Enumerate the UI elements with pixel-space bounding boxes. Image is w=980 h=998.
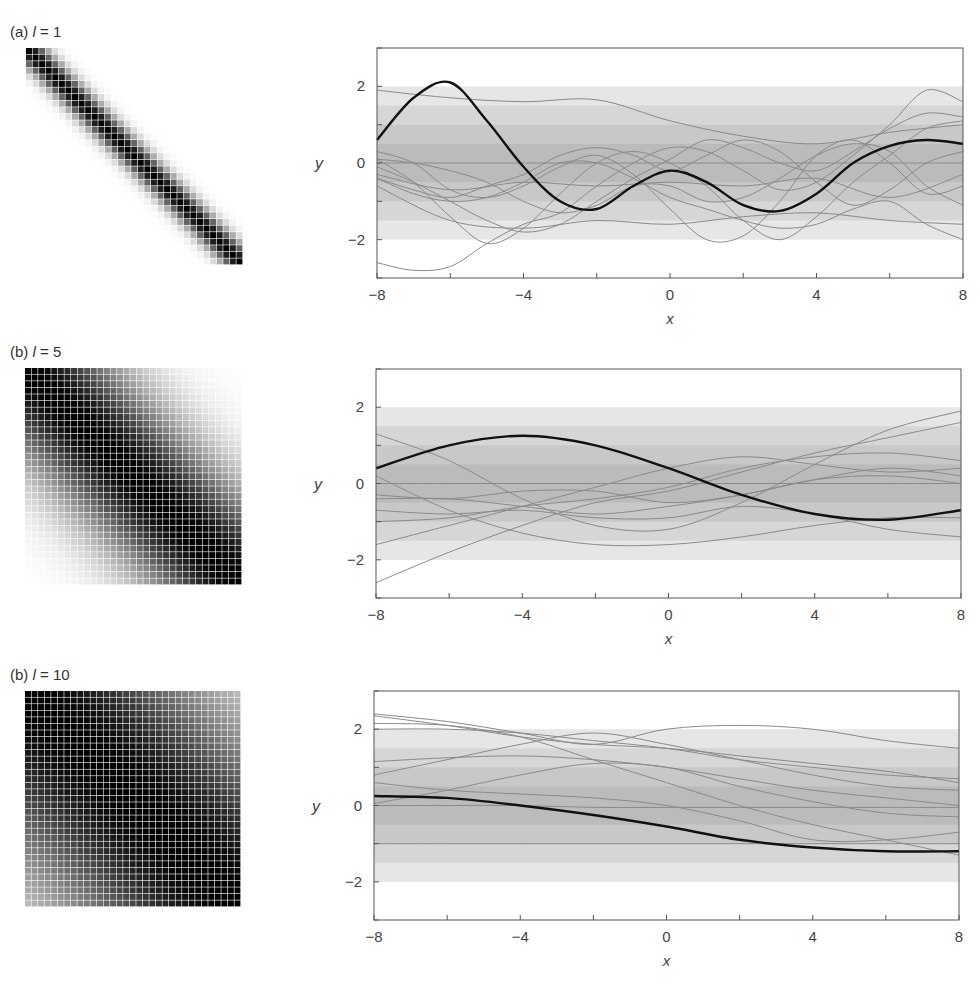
x-tick-label: −4 — [512, 928, 529, 945]
x-tick-label: 8 — [959, 286, 967, 303]
y-tick-label: −2 — [348, 231, 365, 248]
y-tick-label: 0 — [357, 154, 365, 171]
y-tick-label: −2 — [347, 551, 364, 568]
covariance-heatmap — [25, 691, 241, 907]
panel-label-part: = 1 — [36, 23, 61, 40]
x-tick-label: −8 — [365, 928, 382, 945]
x-tick-label: 4 — [812, 286, 820, 303]
y-tick-label: 0 — [356, 475, 364, 492]
panel-label-part: (b) — [10, 343, 33, 360]
y-tick-label: −2 — [345, 873, 362, 890]
x-tick-label: 0 — [662, 928, 670, 945]
y-axis-label: y — [314, 155, 324, 172]
x-tick-label: 4 — [809, 928, 817, 945]
sample-paths-chart: −8−4048−202xy — [300, 38, 980, 338]
x-axis-label: x — [664, 630, 673, 647]
x-tick-label: 0 — [664, 606, 672, 623]
x-axis-label: x — [662, 952, 671, 969]
covariance-heatmap — [25, 368, 242, 585]
sample-paths-chart: −8−4048−202xy — [300, 359, 980, 658]
x-tick-label: 0 — [666, 286, 674, 303]
y-tick-label: 2 — [356, 398, 364, 415]
panel-label-part: (a) — [10, 23, 33, 40]
y-axis-label: y — [311, 798, 321, 815]
y-tick-label: 2 — [354, 720, 362, 737]
panel-label: (b) l = 10 — [10, 666, 70, 683]
x-tick-label: 8 — [957, 606, 965, 623]
panel-label: (a) l = 1 — [10, 23, 61, 40]
panel-label-part: (b) — [10, 666, 33, 683]
x-tick-label: −8 — [368, 286, 385, 303]
x-tick-label: 4 — [811, 606, 819, 623]
panel-label: (b) l = 5 — [10, 343, 61, 360]
panel-label-part: = 10 — [36, 666, 70, 683]
x-tick-label: 8 — [955, 928, 963, 945]
x-tick-label: −4 — [515, 286, 532, 303]
y-axis-label: y — [313, 476, 323, 493]
sample-paths-chart: −8−4048−202xy — [300, 681, 980, 980]
x-axis-label: x — [665, 310, 674, 327]
y-tick-label: 2 — [357, 77, 365, 94]
x-tick-label: −8 — [367, 606, 384, 623]
panel-label-part: = 5 — [36, 343, 61, 360]
covariance-heatmap — [26, 48, 243, 265]
y-tick-label: 0 — [354, 797, 362, 814]
x-tick-label: −4 — [514, 606, 531, 623]
